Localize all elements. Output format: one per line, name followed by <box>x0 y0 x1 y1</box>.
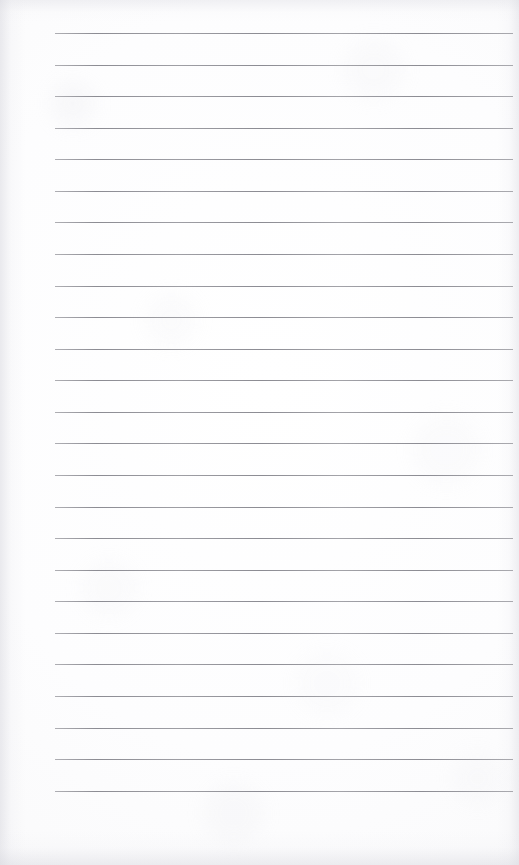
writing-area <box>55 33 513 792</box>
notebook-page <box>0 0 519 865</box>
